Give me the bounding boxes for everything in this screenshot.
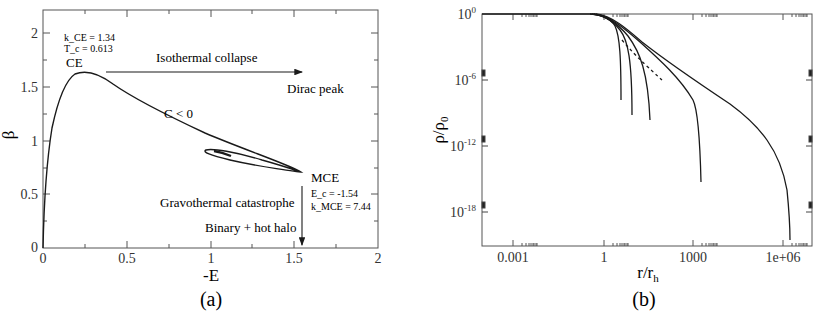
y-tick-10^-12: 10-12: [450, 137, 476, 154]
x-tick-1.5: 1.5: [285, 251, 303, 266]
y-tick-10^-6: 10-6: [455, 71, 477, 88]
profile-curve-4: [594, 14, 701, 182]
x-tick-1000: 1000: [679, 250, 707, 265]
panel-a-x-ticks: [85, 10, 336, 248]
panel-a-y-axis-label: β: [0, 131, 18, 140]
c-negative-label: C < 0: [164, 106, 193, 121]
isothermal-collapse-label: Isothermal collapse: [156, 50, 258, 65]
panel-a-chart: 0 0.5 1 1.5 2 0 0.5 1 1.5 2 -E β k_CE = …: [0, 10, 382, 311]
y-tick-2: 2: [31, 26, 38, 41]
gravothermal-catastrophe-label: Gravothermal catastrophe: [160, 195, 295, 210]
y-tick-1: 1: [31, 134, 38, 149]
panel-b-x-axis-label: r/rh: [637, 263, 659, 284]
mce-label: MCE: [311, 170, 339, 185]
panel-b-tick-labels: 0.001 1 1000 1e+06 100 10-6 10-12 10-18: [450, 5, 801, 265]
y-tick-0.5: 0.5: [21, 187, 39, 202]
panel-a-x-axis-label: -E: [203, 266, 219, 285]
x-tick-1e+06: 1e+06: [765, 250, 800, 265]
y-tick-10^0: 100: [458, 5, 477, 22]
density-profiles: [482, 14, 790, 240]
panel-b-x-ticks: [513, 14, 807, 246]
figure-canvas: 0 0.5 1 1.5 2 0 0.5 1 1.5 2 -E β k_CE = …: [0, 0, 817, 328]
x-tick-0: 0: [40, 251, 47, 266]
e-c-annotation: E_c = -1.54: [311, 188, 358, 199]
profile-curve-dashed: [622, 40, 662, 80]
panel-b-chart: 0.001 1 1000 1e+06 100 10-6 10-12 10-18 …: [429, 5, 812, 311]
panel-b-y-axis-label: ρ/ρ0: [429, 116, 450, 144]
ce-label: CE: [66, 55, 83, 70]
y-tick-1.5: 1.5: [21, 80, 39, 95]
y-tick-10^-18: 10-18: [450, 203, 476, 220]
profile-curve-1: [482, 14, 621, 100]
binary-hot-halo-label: Binary + hot halo: [205, 220, 296, 235]
x-tick-1: 1: [601, 250, 608, 265]
panel-a-caption: (a): [200, 288, 222, 311]
x-tick-0.5: 0.5: [118, 251, 136, 266]
k-mce-annotation: k_MCE = 7.44: [311, 201, 371, 212]
dirac-peak-label: Dirac peak: [287, 81, 344, 96]
x-tick-1: 1: [208, 251, 215, 266]
panel-b-y-ticks: [482, 70, 812, 212]
x-tick-2: 2: [375, 251, 382, 266]
y-tick-0: 0: [31, 240, 38, 255]
k-ce-annotation: k_CE = 1.34: [64, 32, 115, 43]
profile-curve-5: [596, 14, 790, 240]
t-c-annotation: T_c = 0.613: [64, 43, 113, 54]
x-tick-0.001: 0.001: [497, 250, 529, 265]
panel-b-caption: (b): [632, 288, 655, 311]
